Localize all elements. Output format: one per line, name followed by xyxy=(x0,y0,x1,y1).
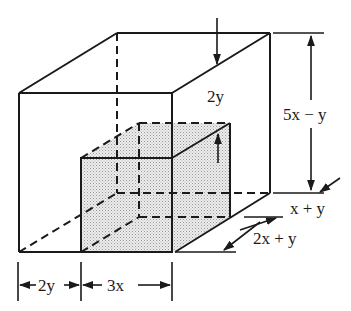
label-top-gap: 2y xyxy=(207,88,224,105)
label-height: 5x − y xyxy=(283,104,327,125)
label-width-cutout-text: 3x xyxy=(107,276,124,295)
label-depth-back: x + y xyxy=(290,200,325,217)
label-width-left: 2y xyxy=(37,277,56,294)
label-width-left-text: 2y xyxy=(38,276,55,295)
label-height-text: 5x − y xyxy=(283,105,327,124)
label-depth-front-text: 2x + y xyxy=(253,229,297,248)
label-depth-front: 2x + y xyxy=(253,230,297,247)
label-width-cutout: 3x xyxy=(106,277,125,294)
label-top-gap-text: 2y xyxy=(207,87,224,106)
label-depth-back-text: x + y xyxy=(290,199,325,218)
box-diagram xyxy=(0,0,351,311)
